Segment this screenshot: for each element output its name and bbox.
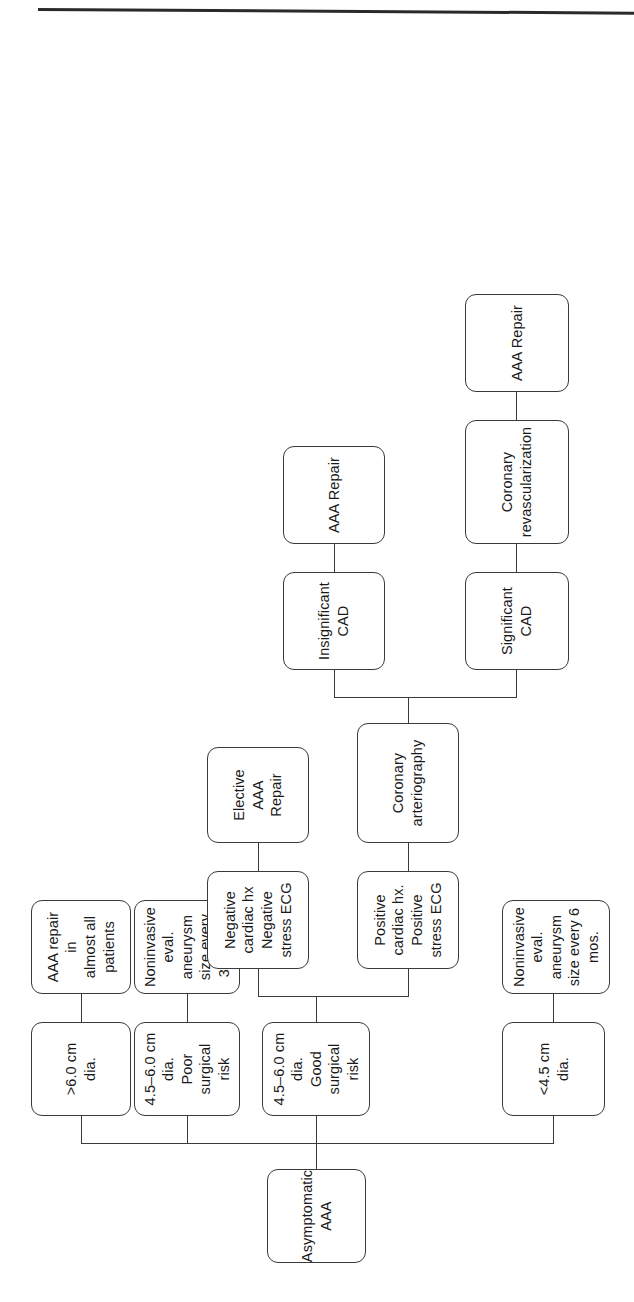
connector-spine-poor (187, 1116, 188, 1144)
node-aaa-repair-insignificant[interactable]: AAA Repair (283, 446, 385, 544)
connector-spine3-significant (516, 670, 517, 698)
node-aaa-repair-significant[interactable]: AAA Repair (465, 294, 569, 392)
node-elective-aaa-repair[interactable]: Elective AAA Repair (207, 747, 309, 843)
node-size-greater-6cm[interactable]: >6.0 cm dia. (31, 1022, 131, 1116)
node-negative-cardiac-hx[interactable]: Negative cardiac hx Negative stress ECG (207, 871, 309, 969)
node-noninvasive-eval-6-months[interactable]: Noninvasive eval. aneurysm size every 6 … (502, 900, 610, 994)
connector-gt6-repair (81, 994, 82, 1022)
node-positive-cardiac-hx[interactable]: Positive cardiac hx. Positive stress ECG (357, 871, 459, 969)
connector-good-spine (258, 996, 408, 997)
connector-spine2-negative (258, 969, 259, 997)
connector-significant-revasc (516, 544, 517, 572)
figure-rotation-wrapper: Asymptomatic AAA >6.0 cm dia. AAA repair… (0, 0, 634, 1302)
connector-arteriography-out (408, 698, 409, 723)
connector-spine3-insignificant (334, 670, 335, 698)
connector-revasc-repair (516, 392, 517, 420)
connector-spine-lt45 (553, 1116, 554, 1144)
connector-spine-gt6 (81, 1116, 82, 1144)
node-coronary-revascularization[interactable]: Coronary revascularization (465, 420, 569, 544)
connector-spine-good (316, 1116, 317, 1144)
node-insignificant-cad[interactable]: Insignificant CAD (283, 572, 385, 670)
node-aaa-repair-almost-all[interactable]: AAA repair in almost all patients (31, 900, 131, 994)
connector-negative-elective (258, 843, 259, 871)
connector-spine2-positive (408, 969, 409, 997)
connector-positive-arteriography (408, 843, 409, 871)
connector-lt45-eval (553, 994, 554, 1022)
flowchart-canvas: Asymptomatic AAA >6.0 cm dia. AAA repair… (17, 31, 617, 1271)
node-size-less-45cm[interactable]: <4.5 cm dia. (502, 1022, 605, 1116)
node-coronary-arteriography[interactable]: Coronary arteriography (357, 723, 459, 843)
node-size-45-60-poor-risk[interactable]: 4.5–6.0 cm dia. Poor surgical risk (134, 1022, 240, 1116)
connector-arteriography-spine (334, 697, 516, 698)
connector-good-out (316, 997, 317, 1022)
node-size-45-60-good-risk[interactable]: 4.5–6.0 cm dia. Good surgical risk (262, 1022, 370, 1116)
connector-insignificant-repair (334, 544, 335, 572)
connector-poor-eval (187, 994, 188, 1022)
node-asymptomatic-aaa[interactable]: Asymptomatic AAA (267, 1169, 366, 1263)
node-significant-cad[interactable]: Significant CAD (465, 572, 569, 670)
connector-root-out (316, 1144, 317, 1169)
